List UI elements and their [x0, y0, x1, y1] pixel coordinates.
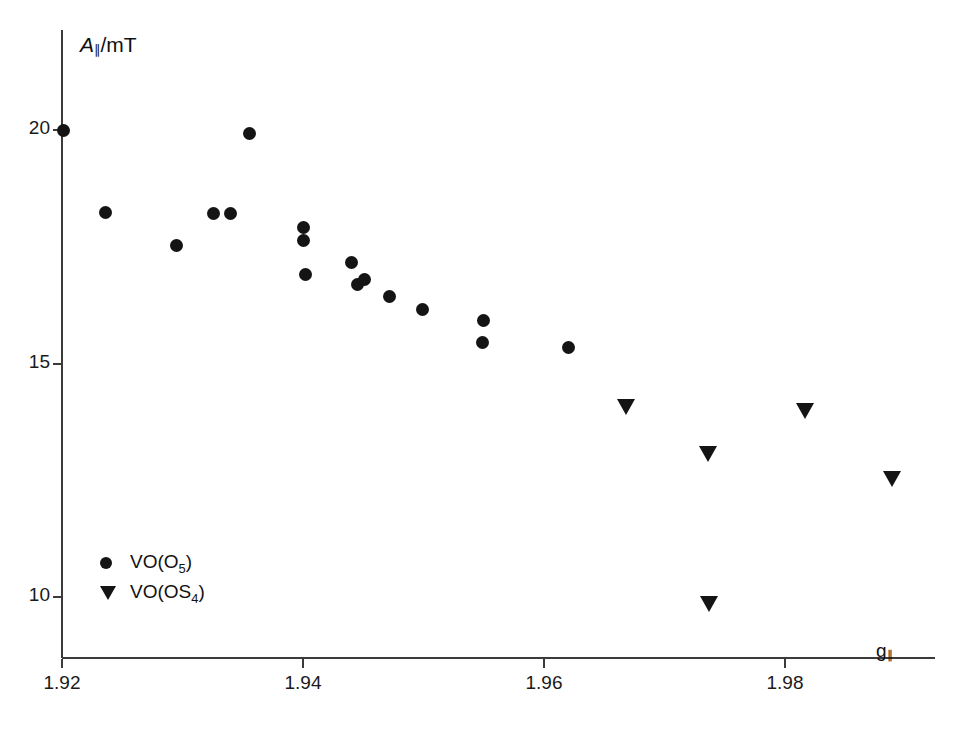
legend-triangle-marker-icon — [100, 586, 126, 600]
x-tick-label: 1.98 — [750, 672, 820, 694]
parallel-bars-icon: ∥ — [94, 42, 101, 57]
legend-item-vo-os4: VO(OS4) — [100, 578, 205, 608]
y-axis-title-unit: /mT — [101, 33, 137, 56]
x-axis-title: g∥ — [876, 640, 892, 662]
data-point-vo(o5) — [416, 303, 429, 316]
scatter-plot: A∥/mT g∥ 101520 1.921.941.961.98 VO(O5) … — [0, 0, 958, 730]
data-point-vo(o5) — [383, 290, 396, 303]
y-axis-title-symbol: A — [80, 33, 94, 56]
x-tick — [784, 659, 786, 668]
legend-label-vo-o5: VO(O5) — [130, 551, 192, 576]
x-tick — [61, 659, 63, 668]
data-point-vo(o5) — [297, 234, 310, 247]
y-tick — [53, 363, 62, 365]
data-point-vo(os4) — [617, 399, 635, 415]
x-tick-label: 1.92 — [27, 672, 97, 694]
data-point-vo(o5) — [224, 207, 237, 220]
x-tick-label: 1.96 — [509, 672, 579, 694]
data-point-vo(o5) — [562, 341, 575, 354]
data-point-vo(o5) — [358, 273, 371, 286]
data-point-vo(o5) — [299, 268, 312, 281]
y-tick-label: 10 — [29, 584, 50, 606]
data-point-vo(o5) — [345, 256, 358, 269]
x-tick — [302, 659, 304, 668]
data-point-vo(o5) — [207, 207, 220, 220]
y-tick-label: 20 — [29, 117, 50, 139]
parallel-bars-icon: ∥ — [887, 648, 893, 661]
x-axis-line — [62, 657, 935, 659]
x-tick-label: 1.94 — [268, 672, 338, 694]
data-point-vo(o5) — [57, 124, 70, 137]
y-tick — [53, 596, 62, 598]
data-point-vo(o5) — [297, 221, 310, 234]
y-tick-label: 15 — [29, 351, 50, 373]
data-point-vo(o5) — [99, 206, 112, 219]
data-point-vo(o5) — [170, 239, 183, 252]
legend: VO(O5) VO(OS4) — [100, 548, 205, 608]
data-point-vo(os4) — [796, 403, 814, 419]
legend-circle-marker-icon — [100, 557, 126, 569]
data-point-vo(o5) — [477, 314, 490, 327]
data-point-vo(o5) — [476, 336, 489, 349]
data-point-vo(os4) — [883, 471, 901, 487]
legend-item-vo-o5: VO(O5) — [100, 548, 205, 578]
x-tick — [543, 659, 545, 668]
x-axis-title-symbol: g — [876, 640, 887, 661]
y-axis-title: A∥/mT — [80, 33, 137, 57]
legend-label-vo-os4: VO(OS4) — [130, 581, 205, 606]
data-point-vo(o5) — [243, 127, 256, 140]
data-point-vo(os4) — [700, 596, 718, 612]
data-point-vo(os4) — [699, 446, 717, 462]
